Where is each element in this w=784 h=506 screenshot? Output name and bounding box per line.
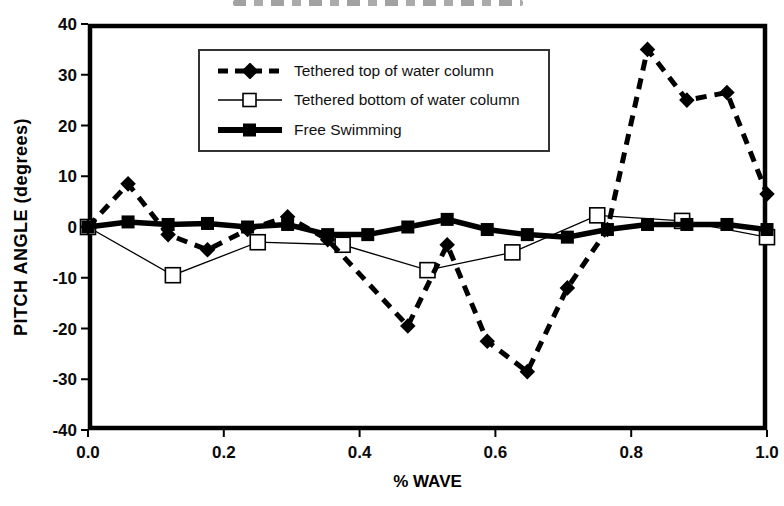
legend-label: Tethered top of water column — [294, 62, 494, 80]
legend-item-free-swimming: Free Swimming — [216, 121, 548, 139]
svg-text:0.0: 0.0 — [76, 443, 100, 462]
svg-text:40: 40 — [58, 15, 77, 34]
svg-text:30: 30 — [58, 66, 77, 85]
legend-label: Tethered bottom of water column — [294, 91, 520, 109]
x-axis-title: % WAVE — [88, 472, 767, 492]
svg-text:0: 0 — [68, 218, 77, 237]
svg-text:-10: -10 — [52, 269, 77, 288]
legend-label: Free Swimming — [294, 121, 402, 139]
dashed-diamond-marker-icon — [216, 63, 284, 79]
y-axis-title: PITCH ANGLE (degrees) — [11, 118, 32, 336]
svg-text:-40: -40 — [52, 421, 77, 440]
svg-text:20: 20 — [58, 117, 77, 136]
thin-line-open-square-marker-icon — [216, 92, 284, 108]
svg-text:10: 10 — [58, 167, 77, 186]
svg-text:0.4: 0.4 — [348, 443, 372, 462]
svg-text:0.6: 0.6 — [484, 443, 508, 462]
svg-text:-20: -20 — [52, 320, 77, 339]
svg-text:1.0: 1.0 — [755, 443, 779, 462]
svg-text:0.8: 0.8 — [619, 443, 643, 462]
svg-text:0.2: 0.2 — [212, 443, 236, 462]
legend-item-tethered-top: Tethered top of water column — [216, 62, 548, 80]
svg-text:-30: -30 — [52, 370, 77, 389]
legend-item-tethered-bottom: Tethered bottom of water column — [216, 91, 548, 109]
legend: Tethered top of water column Tethered bo… — [198, 49, 550, 152]
thick-line-filled-square-marker-icon — [216, 122, 284, 138]
figure: 403020100-10-20-30-400.00.20.40.60.81.0 … — [0, 0, 784, 506]
